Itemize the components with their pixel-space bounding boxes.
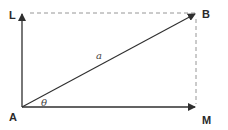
vector-a-label: a [96,50,102,61]
point-label-b: B [202,8,210,20]
point-label-a: A [9,111,17,123]
angle-theta-label: θ [41,97,47,108]
point-label-l: L [9,9,16,21]
vector-diagram: L B A M a θ [0,0,228,130]
point-label-m: M [202,114,211,126]
vector-ab-arrow [22,14,195,107]
